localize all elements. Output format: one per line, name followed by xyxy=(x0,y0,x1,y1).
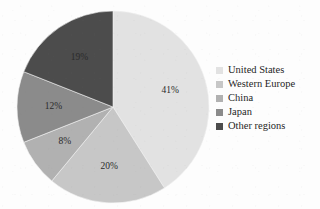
legend-item-label: China xyxy=(228,91,253,105)
legend-item-label: United States xyxy=(228,63,284,77)
legend-item[interactable]: Japan xyxy=(216,105,320,119)
legend-item-label: Japan xyxy=(228,105,252,119)
chart-legend: United StatesWestern EuropeChinaJapanOth… xyxy=(216,63,320,133)
legend-item-label: Other regions xyxy=(228,119,285,133)
pie-chart-svg: 41%20%8%12%19% xyxy=(16,10,210,204)
legend-color-swatch-icon xyxy=(216,81,223,88)
legend-color-swatch-icon xyxy=(216,109,223,116)
pie-data-label: 19% xyxy=(71,52,89,62)
legend-item-label: Western Europe xyxy=(228,77,295,91)
legend-color-swatch-icon xyxy=(216,67,223,74)
pie-data-label: 8% xyxy=(59,136,72,146)
legend-color-swatch-icon xyxy=(216,123,223,130)
legend-item[interactable]: Western Europe xyxy=(216,77,320,91)
pie-data-label: 12% xyxy=(45,101,63,111)
legend-item[interactable]: China xyxy=(216,91,320,105)
legend-color-swatch-icon xyxy=(216,95,223,102)
pie-chart-plot-area: 41%20%8%12%19% xyxy=(16,10,210,204)
pie-data-label: 41% xyxy=(161,85,179,95)
pie-data-label: 20% xyxy=(101,161,119,171)
legend-item[interactable]: Other regions xyxy=(216,119,320,133)
pie-chart-figure: 41%20%8%12%19% United StatesWestern Euro… xyxy=(0,0,320,209)
legend-item[interactable]: United States xyxy=(216,63,320,77)
